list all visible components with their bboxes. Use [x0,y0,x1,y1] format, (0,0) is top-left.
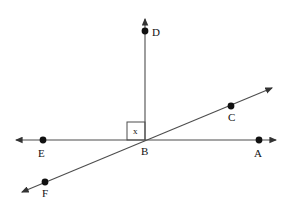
point-label-C: C [228,112,235,123]
point-label-A: A [254,148,262,159]
angle-label-x: x [133,127,138,136]
point-label-F: F [42,188,48,199]
points-group [40,28,263,186]
point-C [228,103,235,110]
point-label-B: B [141,146,148,157]
geometry-figure [0,0,296,204]
point-A [256,137,263,144]
point-label-E: E [38,148,45,159]
point-E [40,137,47,144]
lines-group [16,19,276,192]
point-F [42,179,49,186]
point-label-D: D [152,27,160,38]
point-D [142,28,149,35]
geometry-diagram-canvas: x D C E B A F [0,0,296,204]
